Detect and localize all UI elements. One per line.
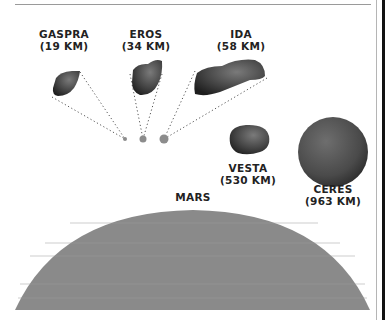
mars-label: MARS [175, 191, 210, 203]
ceres-size: (963 KM) [305, 195, 361, 207]
vesta-image [230, 125, 270, 154]
gaspra-size: (19 KM) [39, 40, 89, 52]
vesta-label: VESTA (530 KM) [220, 162, 276, 186]
mars-name: MARS [175, 191, 210, 203]
eros-image [132, 60, 162, 95]
eros-name: EROS [122, 28, 171, 40]
ceres-image [298, 117, 368, 187]
ida-size: (58 KM) [217, 40, 266, 52]
vesta-size: (530 KM) [220, 174, 276, 186]
eros-label: EROS (34 KM) [122, 28, 171, 52]
ceres-label: CERES (963 KM) [305, 183, 361, 207]
gaspra-label: GASPRA (19 KM) [39, 28, 89, 52]
vesta-name: VESTA [220, 162, 276, 174]
gaspra-scale-dot [123, 137, 127, 141]
ida-image [194, 60, 265, 96]
ida-label: IDA (58 KM) [217, 28, 266, 52]
ceres-name: CERES [305, 183, 361, 195]
gaspra-name: GASPRA [39, 28, 89, 40]
mars-image [15, 210, 370, 310]
eros-scale-dot [140, 136, 147, 143]
eros-size: (34 KM) [122, 40, 171, 52]
ida-scale-dot [160, 135, 169, 144]
ida-name: IDA [217, 28, 266, 40]
gaspra-image [53, 71, 80, 96]
